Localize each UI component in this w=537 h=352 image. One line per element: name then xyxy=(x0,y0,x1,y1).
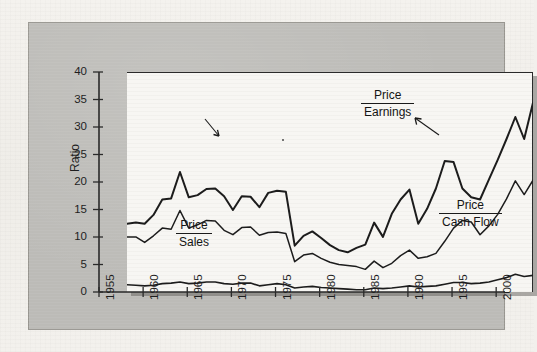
y-axis-tick-label: 40 xyxy=(61,66,87,77)
annotation-ps-numerator: Price xyxy=(176,218,212,234)
annotation-price-earnings: Price Earnings xyxy=(361,88,414,119)
x-axis-tick-label: 1975 xyxy=(282,274,293,300)
x-axis-tick-label: 2000 xyxy=(502,274,513,300)
y-axis-tick-label: 20 xyxy=(61,176,87,187)
x-axis-tick-label: 1985 xyxy=(370,274,381,300)
y-axis-ticks xyxy=(93,72,103,292)
x-axis-tick-label: 1960 xyxy=(149,274,160,300)
y-axis-tick-label: 25 xyxy=(61,149,87,160)
annotation-price-sales: Price Sales xyxy=(176,218,212,249)
y-axis-tick-label: 30 xyxy=(61,121,87,132)
x-axis-tick-label: 1965 xyxy=(193,274,204,300)
x-axis-tick-label: 1970 xyxy=(237,274,248,300)
y-axis-tick-label: 0 xyxy=(61,286,87,297)
annotation-pcf-numerator: Price xyxy=(439,198,502,214)
figure-gray-mount: Ratio 0510152025303540 19551960196519701… xyxy=(28,22,505,330)
y-axis-tick-label: 15 xyxy=(61,204,87,215)
y-axis-tick-label: 5 xyxy=(61,259,87,270)
annotation-pcf-denominator: Cash Flow xyxy=(439,214,502,229)
annotation-pe-denominator: Earnings xyxy=(361,104,414,119)
x-axis-tick-label: 1990 xyxy=(414,274,425,300)
annotation-ps-denominator: Sales xyxy=(176,234,212,249)
x-axis-tick-label: 1955 xyxy=(105,274,116,300)
annotation-pe-numerator: Price xyxy=(361,88,414,104)
axis-canvas xyxy=(28,22,505,330)
y-axis-tick-label: 10 xyxy=(61,231,87,242)
x-axis-tick-label: 1980 xyxy=(326,274,337,300)
x-axis-tick-label: 1995 xyxy=(458,274,469,300)
annotation-price-cash-flow: Price Cash Flow xyxy=(439,198,502,229)
y-axis-tick-label: 35 xyxy=(61,94,87,105)
